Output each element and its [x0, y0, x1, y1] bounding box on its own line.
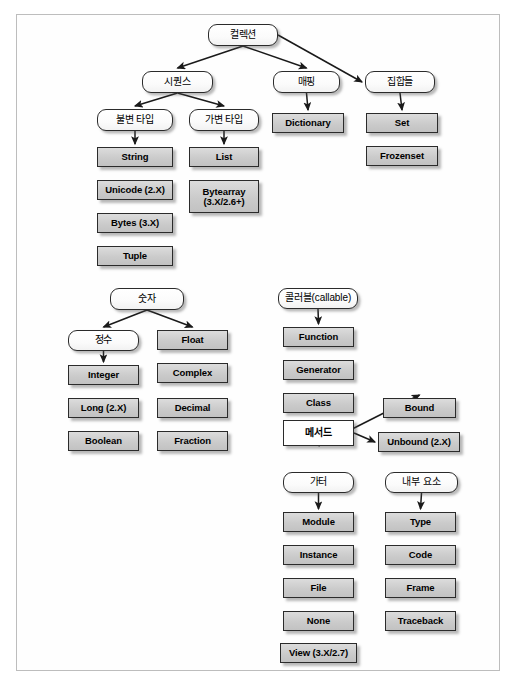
node-list: List	[189, 147, 259, 167]
node-frozenset: Frozenset	[366, 146, 438, 166]
node-label: 정수	[93, 335, 115, 346]
node-immutable: 불변 타입	[97, 109, 173, 131]
node-label: Bytearray (3.X/2.6+)	[201, 187, 248, 207]
node-label: Bytes (3.X)	[109, 218, 161, 228]
node-generator: Generator	[283, 360, 354, 380]
node-label: Type	[408, 517, 433, 527]
node-label: Fraction	[172, 436, 213, 446]
node-label: Traceback	[396, 616, 446, 626]
node-label: Decimal	[173, 403, 213, 413]
node-label: Long (2.X)	[79, 403, 128, 413]
node-method: 메서드	[283, 420, 354, 446]
node-bytearray: Bytearray (3.X/2.6+)	[189, 180, 259, 213]
node-label: String	[120, 152, 151, 162]
node-label: Generator	[294, 365, 343, 375]
node-label: 숫자	[136, 294, 158, 305]
node-bound: Bound	[383, 398, 456, 418]
node-none: None	[283, 611, 354, 631]
node-type: Type	[385, 512, 456, 532]
node-code: Code	[385, 545, 456, 565]
node-mapping: 매핑	[273, 71, 340, 93]
node-sets: 집합들	[365, 71, 435, 93]
node-label: 메서드	[303, 428, 334, 439]
node-set: Set	[366, 113, 438, 133]
node-label: Boolean	[83, 436, 124, 446]
node-decimal: Decimal	[157, 398, 228, 418]
node-label: Dictionary	[283, 118, 332, 128]
node-label: Set	[393, 118, 411, 128]
node-complex: Complex	[157, 363, 228, 383]
node-internals: 내부 요소	[385, 472, 458, 493]
node-traceback: Traceback	[385, 611, 456, 631]
node-mutable: 가변 타입	[189, 109, 259, 131]
node-label: Code	[407, 550, 434, 560]
node-label: Module	[300, 517, 337, 527]
node-file: File	[283, 578, 354, 598]
node-fraction: Fraction	[157, 431, 228, 451]
node-numbers: 숫자	[110, 288, 184, 310]
node-dictionary: Dictionary	[272, 113, 344, 133]
node-label: Unbound (2.X)	[385, 437, 453, 447]
node-integers: 정수	[68, 330, 139, 351]
node-label: Bound	[403, 403, 437, 413]
node-label: Class	[304, 398, 333, 408]
node-long: Long (2.X)	[68, 398, 139, 418]
node-label: 콜러블(callable)	[283, 293, 353, 304]
node-tuple: Tuple	[97, 246, 173, 266]
node-label: List	[214, 152, 235, 162]
node-integer: Integer	[68, 365, 139, 385]
node-label: Frozenset	[378, 151, 426, 161]
node-label: None	[305, 616, 332, 626]
node-string: String	[97, 147, 173, 167]
node-float: Float	[157, 330, 228, 350]
node-label: Instance	[298, 550, 340, 560]
node-label: 집합들	[385, 77, 416, 88]
node-label: Float	[179, 335, 205, 345]
node-view: View (3.X/2.7)	[280, 643, 357, 663]
node-label: Integer	[86, 370, 121, 380]
node-callable: 콜러블(callable)	[278, 288, 358, 309]
node-label: 컬렉션	[228, 30, 259, 41]
node-frame: Frame	[385, 578, 456, 598]
node-function: Function	[283, 327, 354, 347]
node-boolean: Boolean	[68, 431, 139, 451]
node-bytes: Bytes (3.X)	[97, 213, 173, 233]
node-label: Frame	[404, 583, 436, 593]
node-label: 가변 타입	[203, 115, 245, 126]
node-module: Module	[283, 512, 354, 532]
node-label: 내부 요소	[400, 477, 442, 488]
node-unicode: Unicode (2.X)	[97, 180, 173, 200]
node-label: 매핑	[296, 77, 318, 88]
node-label: 불변 타입	[114, 115, 156, 126]
node-unbound: Unbound (2.X)	[378, 432, 460, 452]
node-label: View (3.X/2.7)	[287, 648, 350, 658]
node-collection: 컬렉션	[208, 24, 278, 46]
node-label: 시퀀스	[162, 77, 193, 88]
node-label: 가터	[308, 477, 330, 488]
node-label: Complex	[171, 368, 214, 378]
node-label: Tuple	[121, 251, 149, 261]
node-class: Class	[283, 393, 354, 413]
node-instance: Instance	[283, 545, 354, 565]
node-label: Unicode (2.X)	[103, 185, 166, 195]
node-sequence: 시퀀스	[142, 71, 213, 93]
node-label: Function	[297, 332, 340, 342]
diagram-page: 컬렉션시퀀스매핑집합들불변 타입가변 타입DictionarySetFrozen…	[0, 0, 519, 686]
node-label: File	[309, 583, 329, 593]
node-others: 가터	[283, 472, 354, 493]
